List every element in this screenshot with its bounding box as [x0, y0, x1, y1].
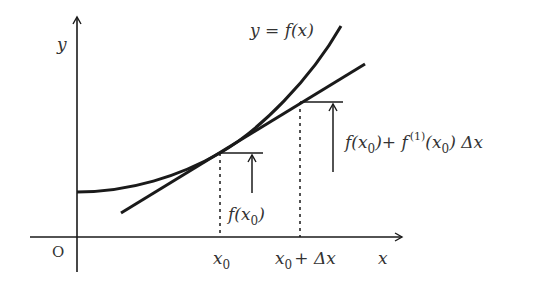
tangent-approximation-diagram: y x O y = f(x) x0 x0+ Δx f(x0) f(x0)+ f(…	[0, 0, 549, 296]
curve-label: y = f(x)	[249, 20, 314, 40]
approximation-label: f(x0)+ f(1)(x0) Δx	[343, 130, 484, 156]
x-axis-label: x	[378, 248, 388, 268]
x0-plus-dx-tick-label: x0+ Δx	[275, 248, 336, 272]
origin-label: O	[52, 243, 64, 261]
y-axis-label: y	[56, 34, 67, 54]
x0-tick-label: x0	[213, 248, 230, 272]
function-curve	[77, 26, 341, 192]
tangent-line	[121, 64, 365, 213]
fx0-label: f(x0)	[226, 204, 265, 228]
